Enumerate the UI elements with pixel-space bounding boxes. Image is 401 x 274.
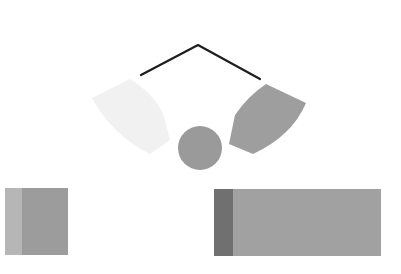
diagram-svg	[0, 0, 401, 274]
chevron-line	[141, 45, 260, 79]
diagram-canvas	[0, 0, 401, 274]
right-block	[214, 189, 381, 256]
right-block-strip	[214, 189, 233, 256]
center-circle	[178, 126, 222, 170]
right-arc-segment	[229, 84, 306, 154]
left-block-strip	[5, 188, 22, 255]
right-block-body	[214, 189, 381, 256]
left-arc-segment	[92, 79, 170, 154]
left-block	[5, 188, 68, 255]
